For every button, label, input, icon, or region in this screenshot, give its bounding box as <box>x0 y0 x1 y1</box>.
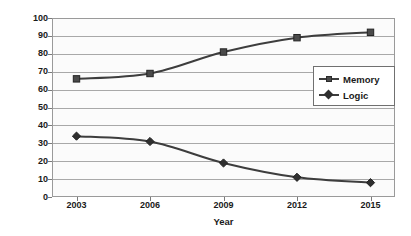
y-tick-mark <box>48 125 52 126</box>
x-tick-mark <box>224 197 225 201</box>
y-tick-label: 50 <box>28 103 48 112</box>
y-tick-label: 100 <box>28 14 48 23</box>
x-tick-label: 2015 <box>346 200 396 210</box>
y-axis-tick-labels: 0102030405060708090100 <box>20 18 48 197</box>
x-tick-label: 2006 <box>125 200 175 210</box>
y-tick-mark <box>48 18 52 19</box>
y-tick-label: 80 <box>28 49 48 58</box>
y-tick-label: 40 <box>28 121 48 130</box>
legend-marker-square-icon <box>318 73 340 85</box>
y-tick-label: 20 <box>28 157 48 166</box>
data-point-diamond <box>72 132 80 140</box>
y-tick-label: 70 <box>28 67 48 76</box>
y-tick-mark <box>48 143 52 144</box>
x-tick-mark <box>371 197 372 201</box>
data-point-diamond <box>219 159 227 167</box>
x-tick-label: 2012 <box>272 200 322 210</box>
data-point-diamond <box>293 173 301 181</box>
legend-label: Memory <box>340 74 379 85</box>
series-logic <box>72 132 374 187</box>
y-tick-label: 10 <box>28 175 48 184</box>
data-point-diamond <box>366 179 374 187</box>
y-tick-mark <box>48 197 52 198</box>
series-layer <box>52 18 395 197</box>
x-tick-label: 2003 <box>52 200 102 210</box>
legend-marker-diamond-icon <box>318 89 340 101</box>
x-tick-mark <box>297 197 298 201</box>
y-tick-mark <box>48 36 52 37</box>
x-axis-tick-labels: 20032006200920122015 <box>52 200 395 214</box>
y-tick-mark <box>48 72 52 73</box>
legend-entry-logic[interactable]: Logic <box>318 87 391 103</box>
data-point-square <box>220 49 226 55</box>
legend-label: Logic <box>340 90 368 101</box>
data-point-square <box>294 34 300 40</box>
x-axis-title: Year <box>52 216 395 227</box>
legend-entry-memory[interactable]: Memory <box>318 71 391 87</box>
y-tick-label: 60 <box>28 85 48 94</box>
x-tick-mark <box>77 197 78 201</box>
data-point-square <box>147 70 153 76</box>
y-tick-mark <box>48 179 52 180</box>
y-tick-label: 90 <box>28 31 48 40</box>
y-tick-mark <box>48 54 52 55</box>
data-point-square <box>73 76 79 82</box>
y-tick-label: 0 <box>28 193 48 202</box>
data-point-diamond <box>146 137 154 145</box>
y-tick-mark <box>48 90 52 91</box>
data-point-square <box>367 29 373 35</box>
y-tick-mark <box>48 161 52 162</box>
line-chart: Area contribution, % 0102030405060708090… <box>0 0 411 236</box>
y-tick-mark <box>48 108 52 109</box>
x-tick-label: 2009 <box>199 200 249 210</box>
y-tick-label: 30 <box>28 139 48 148</box>
x-tick-mark <box>150 197 151 201</box>
chart-legend: MemoryLogic <box>313 66 395 106</box>
